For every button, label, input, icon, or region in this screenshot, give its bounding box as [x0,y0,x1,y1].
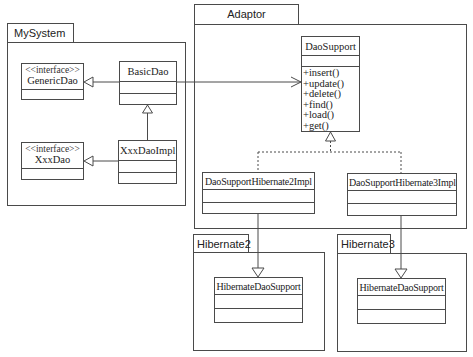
package-hibernate3-tab: Hibernate3 [337,234,391,254]
class-attributes [348,191,456,204]
operation-get: +get() [302,121,359,132]
class-name: DaoSupport [302,37,359,56]
class-name: HibernateDaoSupport [215,278,302,295]
class-dao-support: DaoSupport +insert() +update() +delete()… [301,36,360,132]
class-name-text: XxxDao [35,154,71,165]
class-name: HibernateDaoSupport [358,279,445,296]
class-body [22,90,83,99]
stereotype-label: <<interface>> [23,65,82,75]
class-generic-dao: <<interface>> GenericDao [21,63,84,100]
class-attributes [302,56,359,67]
package-mysystem-tab: MySystem [7,23,74,43]
class-attributes [358,296,445,310]
class-body [22,169,83,179]
class-operations [348,204,456,215]
class-operations [203,203,314,213]
class-dao-support-hibernate3-impl: DaoSupportHibernate3Impl [347,173,457,216]
operation-load: +load() [302,110,359,121]
class-operations [120,94,176,104]
package-adaptor-tab: Adaptor [194,4,299,25]
class-hibernate-dao-support-2: HibernateDaoSupport [214,277,303,323]
class-hibernate-dao-support-3: HibernateDaoSupport [357,278,446,324]
class-dao-support-hibernate2-impl: DaoSupportHibernate2Impl [202,172,315,214]
class-name: DaoSupportHibernate3Impl [348,174,456,191]
class-operations [215,309,302,322]
class-xxx-dao: <<interface>> XxxDao [21,142,84,180]
class-name: BasicDao [120,62,176,82]
class-xxx-dao-impl: XxxDaoImpl [118,140,177,184]
class-attributes [215,295,302,309]
class-attributes [120,82,176,94]
class-name: <<interface>> GenericDao [22,64,83,90]
class-attributes [203,190,314,203]
uml-class-diagram: MySystem Adaptor Hibernate2 Hibernate3 <… [0,0,473,357]
class-name: <<interface>> XxxDao [22,143,83,169]
operation-delete: +delete() [302,89,359,100]
class-operations [119,173,176,183]
class-name: DaoSupportHibernate2Impl [203,173,314,190]
class-name: XxxDaoImpl [119,141,176,161]
class-basic-dao: BasicDao [119,61,177,105]
stereotype-label: <<interface>> [23,144,82,154]
class-attributes [119,161,176,173]
package-hibernate2-tab: Hibernate2 [193,234,249,253]
class-operations: +insert() +update() +delete() +find() +l… [302,67,359,131]
class-name-text: GenericDao [27,75,78,86]
class-operations [358,310,445,323]
operation-insert: +insert() [302,68,359,79]
